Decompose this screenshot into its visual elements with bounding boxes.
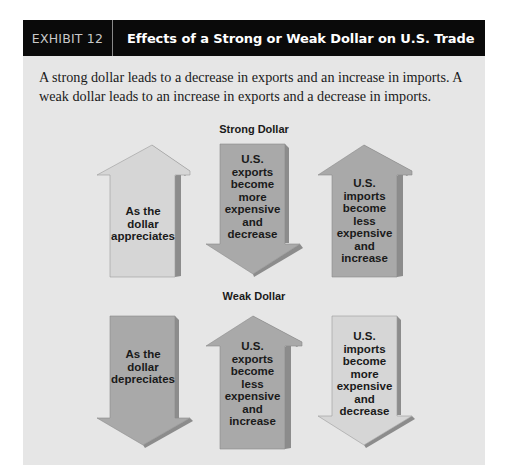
arrow-label-dollar-depreciates: As the dollar depreciates [108, 348, 178, 386]
arrow-label-imports-decrease: U.S. imports become more expensive and d… [327, 330, 402, 418]
arrow-label-dollar-appreciates: As the dollar appreciates [108, 205, 178, 243]
arrow-label-exports-decrease: U.S. exports become more expensive and d… [215, 153, 290, 241]
arrow-label-exports-increase: U.S. exports become less expensive and i… [215, 340, 290, 428]
arrow-label-imports-increase: U.S. imports become less expensive and i… [327, 177, 402, 265]
